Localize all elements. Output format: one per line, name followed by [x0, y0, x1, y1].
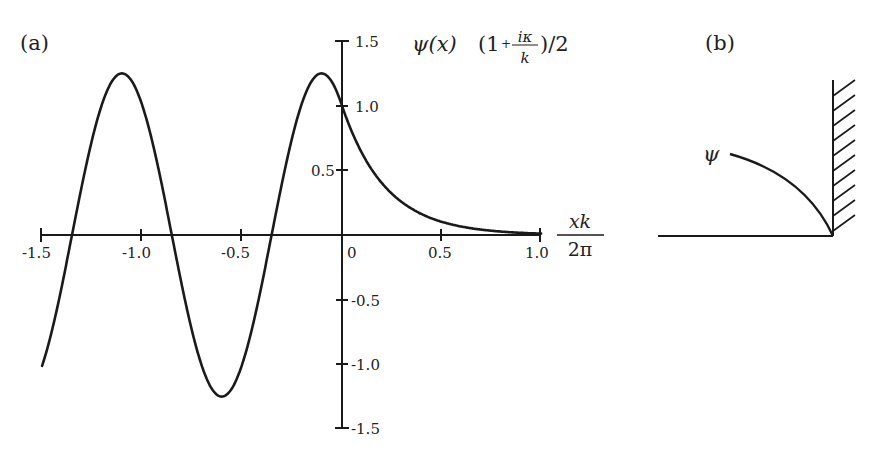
x-axis — [41, 228, 540, 242]
x-tick-label: -0.5 — [221, 244, 250, 262]
psi-label: ψ — [703, 142, 720, 166]
x-tick-labels: -1.5 -1.0 -0.5 0 0.5 1.0 — [22, 244, 549, 262]
wall-diagram — [658, 80, 855, 236]
y-label-plus: + — [501, 37, 511, 51]
y-tick-label: -0.5 — [351, 292, 380, 310]
x-axis-label: xk 2π — [557, 210, 604, 260]
y-tick-label: 0.5 — [311, 162, 335, 180]
wall-hatching — [833, 80, 855, 231]
panel-a-label: (a) — [20, 31, 49, 55]
y-tick-label: -1.5 — [351, 420, 380, 438]
figure: (a) -1.5 -1.0 -0.5 0 0.5 1.0 xk 2π 1.5 1… — [0, 0, 880, 456]
x-label-denominator: 2π — [568, 238, 593, 260]
y-tick-label: 1.5 — [355, 33, 379, 51]
y-label-open: (1 — [478, 32, 500, 56]
y-label-frac-num: iκ — [518, 28, 533, 46]
y-tick-label: 1.0 — [355, 98, 379, 116]
x-tick-label: -1.5 — [22, 244, 51, 262]
x-tick-label: 1.0 — [525, 244, 549, 262]
y-axis-label: ψ(x) (1 + iκ k )/2 — [412, 28, 569, 67]
y-tick-label: -1.0 — [351, 356, 380, 374]
psi-decay-curve — [730, 154, 833, 236]
y-label-frac-den: k — [520, 49, 529, 67]
x-tick-label: -1.0 — [122, 244, 151, 262]
x-tick-label: 0.5 — [428, 244, 452, 262]
y-label-close: )/2 — [540, 32, 569, 56]
x-label-numerator: xk — [569, 210, 591, 232]
panel-b-label: (b) — [705, 31, 735, 55]
y-label-function: ψ(x) — [412, 32, 457, 56]
x-tick-label: 0 — [347, 244, 357, 262]
